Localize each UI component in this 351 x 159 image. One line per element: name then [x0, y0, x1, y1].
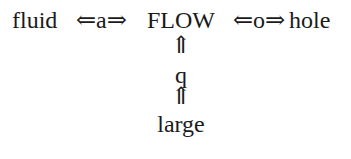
- double-up-arrow-icon: ⇑: [171, 33, 191, 57]
- node-hole: hole: [289, 8, 330, 32]
- double-up-arrow-icon: ⇑: [171, 84, 191, 108]
- relation-a: ⇐a⇒: [76, 8, 127, 32]
- node-fluid: fluid: [12, 8, 57, 32]
- relation-o: ⇐o⇒: [233, 8, 285, 32]
- node-flow: FLOW: [147, 8, 215, 32]
- node-large: large: [157, 112, 205, 136]
